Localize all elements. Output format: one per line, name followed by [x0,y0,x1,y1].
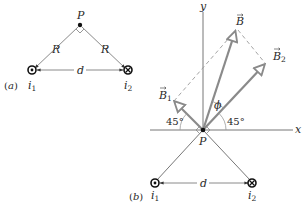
point-p-label-b: P [198,135,207,148]
wire-2-into-page-icon-a [124,66,132,74]
dashed-b-to-b2 [238,30,265,63]
svg-text:B: B [235,15,244,28]
dashed-b1-to-b [174,30,236,101]
line-p-to-wire-2 [203,130,250,180]
y-axis-label: y [199,0,207,13]
svg-text:B2: B2 [272,50,286,64]
wire-1-out-of-page-icon-a [28,66,36,74]
angle-right-label: 45° [227,116,245,127]
d-label-a: d [77,64,84,77]
angle-left-label: 45° [166,116,184,127]
panel-a: P R R d (a) i1 i2 [4,9,133,93]
d-label-b: d [200,177,207,190]
x-axis-label: x [295,123,302,136]
point-p-a [78,23,82,27]
vector-b2-label: B2 [272,48,286,64]
vector-b1-label: B1 [158,87,172,103]
r-label-right: R [100,43,109,56]
wire-1-out-of-page-icon-b [151,179,159,187]
wire-2-label-b: i2 [248,189,257,203]
angle-arc-right [219,114,226,130]
r-label-left: R [51,43,60,56]
wire-1-label-a: i1 [28,79,36,93]
point-p-label-a: P [76,9,85,22]
panel-b: y x B B1 B2 45° 45° ϕ [129,0,302,203]
panel-label-b: (b) [129,191,143,202]
svg-text:B1: B1 [158,89,172,103]
angle-phi-label: ϕ [214,99,222,112]
magnetic-field-diagram: P R R d (a) i1 i2 y x [0,0,304,204]
wire-2-into-page-icon-b [248,179,256,187]
wire-1-label-b: i1 [151,189,159,203]
wire-2-label-a: i2 [124,79,133,93]
vector-b-label: B [235,14,244,28]
panel-label-a: (a) [4,80,18,91]
line-p-to-wire-1 [157,130,203,180]
point-p-b [201,128,206,133]
right-angle-marker-a [76,29,84,33]
